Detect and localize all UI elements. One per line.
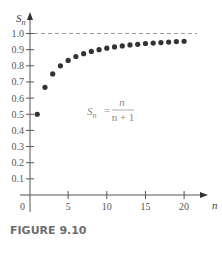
x-axis-ticks: 5101520 (66, 191, 189, 212)
svg-text:10: 10 (102, 201, 112, 212)
data-point (42, 85, 47, 90)
svg-text:0.5: 0.5 (12, 109, 25, 120)
data-point (174, 39, 179, 44)
svg-text:20: 20 (179, 201, 189, 212)
figure-caption: FIGURE 9.10 (10, 224, 87, 237)
svg-text:0.6: 0.6 (12, 93, 25, 104)
formula-annotation: Sn = n n + 1 (87, 96, 134, 123)
data-point (182, 39, 187, 44)
data-point (96, 47, 101, 52)
formula-denominator: n + 1 (112, 111, 135, 123)
svg-text:0.2: 0.2 (12, 157, 25, 168)
svg-text:0.8: 0.8 (12, 60, 25, 71)
y-axis-label: Sn (16, 12, 26, 27)
data-point (35, 112, 40, 117)
svg-text:0.1: 0.1 (12, 173, 25, 184)
y-axis-ticks: 0.10.20.30.40.50.60.70.80.91.0 (12, 28, 35, 184)
data-point (58, 63, 63, 68)
data-point (104, 46, 109, 51)
data-point (151, 40, 156, 45)
formula-numerator: n (119, 96, 125, 108)
formula-equals: = (104, 104, 110, 116)
data-point (81, 51, 86, 56)
data-point (89, 49, 94, 54)
origin-label: 0 (20, 201, 25, 212)
data-points (35, 39, 187, 117)
data-point (135, 42, 140, 47)
data-point (66, 58, 71, 63)
data-point (50, 71, 55, 76)
svg-text:5: 5 (66, 201, 71, 212)
svg-text:0.4: 0.4 (12, 125, 25, 136)
data-point (166, 39, 171, 44)
x-axis-arrow-icon (200, 192, 208, 198)
data-point (158, 40, 163, 45)
svg-text:0.3: 0.3 (12, 141, 25, 152)
svg-text:0.9: 0.9 (12, 44, 25, 55)
svg-text:1.0: 1.0 (12, 28, 25, 39)
data-point (112, 44, 117, 49)
data-point (73, 54, 78, 59)
data-point (143, 41, 148, 46)
svg-text:15: 15 (140, 201, 150, 212)
y-axis-arrow-icon (27, 12, 33, 20)
svg-text:0.7: 0.7 (12, 76, 25, 87)
data-point (120, 43, 125, 48)
x-axis-label: n (212, 199, 218, 211)
sequence-chart: 0.10.20.30.40.50.60.70.80.91.0 5101520 S… (0, 0, 222, 253)
formula-lhs: Sn (87, 105, 97, 120)
data-point (127, 42, 132, 47)
